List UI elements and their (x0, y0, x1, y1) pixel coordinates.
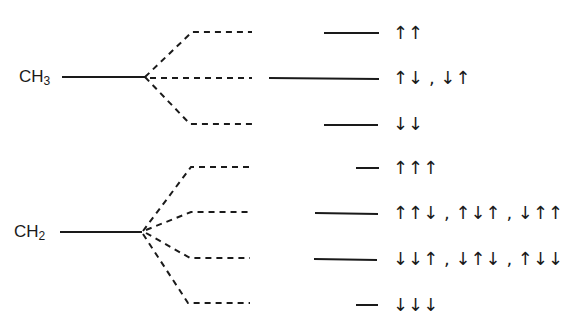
ch3-spin-state-2: ↑↓ , ↓↑ (393, 69, 471, 87)
ch3-label-main: CH (19, 67, 44, 86)
ch2-spin-state-4: ↓↓↓ (393, 296, 438, 314)
ch3-branch-lines (145, 32, 252, 124)
ch2-spin-state-3: ↓↓↑ , ↓↑↓ , ↑↓↓ (393, 250, 563, 268)
ch2-label-subscript: 2 (39, 229, 46, 243)
ch3-label-subscript: 3 (44, 74, 51, 88)
ch2-spin-state-1: ↑↑↑ (393, 159, 438, 177)
ch2-label: CH2 (14, 223, 45, 242)
ch3-spin-state-1: ↑↑ (393, 24, 423, 42)
ch2-branch-lines (143, 167, 252, 303)
ch3-label: CH3 (19, 68, 50, 87)
ch3-spin-state-3: ↓↓ (393, 115, 423, 133)
ch2-spin-state-2: ↑↑↓ , ↑↓↑ , ↓↑↑ (393, 204, 563, 222)
ch3-split-levels (269, 33, 379, 125)
ch2-label-main: CH (14, 222, 39, 241)
ch2-split-levels (314, 168, 379, 305)
